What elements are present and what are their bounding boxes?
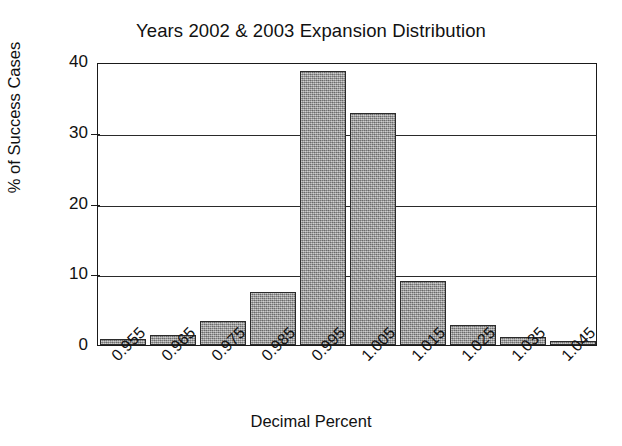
bar-series xyxy=(98,64,596,345)
chart-title: Years 2002 & 2003 Expansion Distribution xyxy=(0,20,622,42)
chart-figure: Years 2002 & 2003 Expansion Distribution… xyxy=(0,0,622,446)
y-tick-label: 30 xyxy=(36,123,88,143)
y-tick-mark xyxy=(91,134,100,135)
plot-area xyxy=(97,63,597,346)
y-tick-label: 0 xyxy=(36,335,88,355)
y-tick-mark xyxy=(91,275,100,276)
x-axis-label: Decimal Percent xyxy=(0,412,622,431)
y-tick-label: 20 xyxy=(36,194,88,214)
y-tick-label: 10 xyxy=(36,264,88,284)
y-axis-label: % of Success Cases xyxy=(5,0,24,238)
y-tick-label: 40 xyxy=(36,52,88,72)
y-tick-mark xyxy=(91,205,100,206)
